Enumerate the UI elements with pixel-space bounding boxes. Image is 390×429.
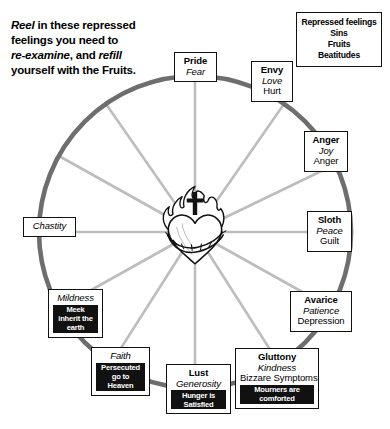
node-sloth[interactable]: Sloth Peace Guilt bbox=[307, 211, 352, 252]
node-gluttony-beatitude: Mourners are comforted bbox=[240, 385, 314, 404]
node-lust-fruit: Generosity bbox=[171, 379, 226, 390]
heart-shape bbox=[168, 215, 221, 264]
node-avarice[interactable]: Avarice Patience Depression bbox=[290, 291, 352, 332]
node-faith[interactable]: Faith Persecuted go to Heaven bbox=[91, 347, 150, 396]
node-gluttony[interactable]: Gluttony Kindness Bizzare Symptoms Mourn… bbox=[235, 348, 319, 409]
node-lust-beatitude: Hunger is Satisfied bbox=[171, 390, 226, 409]
legend-row-sins: Sins bbox=[300, 28, 378, 39]
legend-row-fruits: Fruits bbox=[300, 39, 378, 50]
node-pride-fruit: Fear bbox=[179, 67, 212, 78]
node-chastity-fruit: Chastity bbox=[28, 221, 71, 232]
node-faith-fruit: Faith bbox=[96, 351, 145, 362]
legend-key: Repressed feelings Sins Fruits Beatitude… bbox=[296, 12, 382, 67]
node-anger[interactable]: Anger Joy Anger bbox=[304, 131, 348, 172]
node-lust[interactable]: Lust Generosity Hunger is Satisfied bbox=[166, 364, 231, 414]
node-anger-sin: Anger bbox=[309, 135, 343, 146]
node-envy-repressed: Hurt bbox=[256, 86, 288, 97]
legend-row-beatitudes: Beatitudes bbox=[300, 50, 378, 61]
node-sloth-sin: Sloth bbox=[312, 215, 347, 226]
intro-paragraph: Reel in these repressed feelings you nee… bbox=[11, 18, 171, 78]
legend-row-repressed-feelings: Repressed feelings bbox=[300, 17, 378, 28]
node-faith-beatitude: Persecuted go to Heaven bbox=[96, 363, 145, 391]
node-mildness[interactable]: Mildness Meek inherit the earth bbox=[48, 289, 103, 338]
diagram-canvas: Reel in these repressed feelings you nee… bbox=[0, 0, 390, 429]
intro-emphasis-reexamine: re-examine bbox=[11, 49, 70, 61]
node-anger-repressed: Anger bbox=[309, 156, 343, 167]
node-pride[interactable]: Pride Fear bbox=[174, 52, 217, 82]
intro-line-4: yourself with the Fruits. bbox=[11, 64, 136, 76]
node-mildness-beatitude: Meek inherit the earth bbox=[53, 305, 98, 333]
intro-emphasis-refill: refill bbox=[99, 49, 122, 61]
node-mildness-fruit: Mildness bbox=[53, 293, 98, 304]
intro-emphasis-reel: Reel bbox=[11, 19, 35, 31]
node-avarice-sin: Avarice bbox=[295, 295, 347, 306]
node-avarice-repressed: Depression bbox=[295, 316, 347, 327]
intro-line-3: re-examine, and refill bbox=[11, 49, 122, 61]
intro-line-2: feelings you need to bbox=[11, 34, 118, 46]
node-pride-sin: Pride bbox=[179, 56, 212, 67]
node-lust-sin: Lust bbox=[171, 368, 226, 379]
node-envy-sin: Envy bbox=[256, 65, 288, 76]
node-gluttony-sin: Gluttony bbox=[240, 352, 314, 363]
node-gluttony-repressed: Bizzare Symptoms bbox=[240, 373, 314, 384]
node-chastity[interactable]: Chastity bbox=[23, 217, 76, 237]
node-sloth-repressed: Guilt bbox=[312, 236, 347, 247]
node-envy[interactable]: Envy Love Hurt bbox=[251, 61, 293, 102]
intro-line-1: Reel in these repressed bbox=[11, 19, 136, 31]
